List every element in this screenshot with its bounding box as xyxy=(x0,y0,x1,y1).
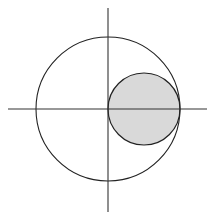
diagram-canvas xyxy=(0,0,217,220)
